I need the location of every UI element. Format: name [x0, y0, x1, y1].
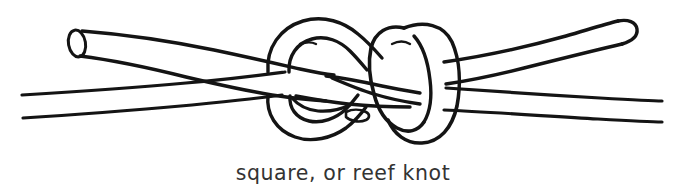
- lower-left-standing-part: [22, 72, 285, 118]
- knot-figure: square, or reef knot: [0, 0, 686, 194]
- rope-cut-end-ellipse: [66, 29, 87, 59]
- square-knot-illustration: [0, 0, 686, 160]
- sketch-accents: [300, 42, 410, 44]
- lower-right-standing-part: [444, 88, 662, 122]
- figure-caption: square, or reef knot: [0, 158, 686, 188]
- upper-right-rope-end: [444, 20, 637, 84]
